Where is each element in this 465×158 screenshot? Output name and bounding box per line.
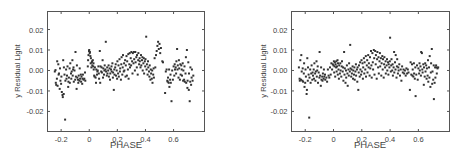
data-point [363, 57, 365, 59]
data-point [359, 69, 361, 71]
data-point [116, 70, 118, 72]
data-point [66, 78, 68, 80]
data-point [348, 62, 350, 64]
data-point [76, 77, 78, 79]
data-point [393, 66, 395, 68]
data-point [164, 92, 166, 94]
data-point [400, 69, 402, 71]
data-point [136, 66, 138, 68]
data-point [397, 73, 399, 75]
data-point [76, 88, 78, 90]
data-point [122, 66, 124, 68]
data-point [370, 50, 372, 52]
data-point [345, 82, 347, 84]
data-point [381, 62, 383, 64]
data-point [88, 49, 90, 51]
data-point [81, 83, 83, 85]
data-point [303, 73, 305, 75]
data-point [308, 74, 310, 76]
data-point [346, 64, 348, 66]
data-point [129, 66, 131, 68]
data-point [379, 52, 381, 54]
data-points [298, 37, 439, 119]
data-point [60, 83, 62, 85]
data-point [328, 75, 330, 77]
data-point [127, 69, 129, 71]
data-point [189, 81, 191, 83]
data-point [396, 58, 398, 60]
y-tick-label: 0.01 [29, 46, 44, 55]
data-point [344, 67, 346, 69]
x-axis-label: PHASE [354, 139, 386, 150]
data-point [90, 57, 92, 59]
data-point [307, 66, 309, 68]
y-tick-label: 0.00 [273, 66, 288, 75]
data-point [335, 63, 337, 65]
data-point [142, 62, 144, 64]
data-point [117, 73, 119, 75]
data-point [172, 79, 174, 81]
data-point [414, 78, 416, 80]
data-point [355, 63, 357, 65]
data-point [67, 65, 69, 67]
data-point [146, 69, 148, 71]
data-point [90, 66, 92, 68]
data-point [160, 47, 162, 49]
data-point [122, 54, 124, 56]
data-point [359, 61, 361, 63]
data-point [298, 66, 300, 68]
data-point [186, 87, 188, 89]
data-point [413, 73, 415, 75]
data-point [340, 76, 342, 78]
data-point [64, 119, 66, 121]
data-point [369, 75, 371, 77]
data-point [96, 74, 98, 76]
data-point [95, 82, 97, 84]
data-point [304, 86, 306, 88]
data-point [79, 78, 81, 80]
data-point [398, 63, 400, 65]
data-point [347, 85, 349, 87]
data-point [344, 74, 346, 76]
data-point [74, 79, 76, 81]
data-point [371, 52, 373, 54]
data-point [302, 81, 304, 83]
data-point [63, 66, 65, 68]
data-point [423, 84, 425, 86]
data-point [424, 76, 426, 78]
data-point [362, 78, 364, 80]
data-point [99, 50, 101, 52]
data-point [313, 78, 315, 80]
data-point [397, 66, 399, 68]
data-point [77, 82, 79, 84]
data-point [182, 70, 184, 72]
data-point [140, 66, 142, 68]
data-point [62, 96, 64, 98]
data-point [324, 79, 326, 81]
data-point [148, 71, 150, 73]
data-point [93, 69, 95, 71]
data-point [115, 75, 117, 77]
data-point [323, 69, 325, 71]
data-point [341, 60, 343, 62]
data-point [71, 59, 73, 61]
data-point [78, 75, 80, 77]
data-point [191, 77, 193, 79]
data-point [165, 71, 167, 73]
data-point [342, 80, 344, 82]
data-point [173, 75, 175, 77]
data-point [146, 63, 148, 65]
data-point [422, 63, 424, 65]
x-tick-label: 0 [331, 135, 335, 144]
data-point [147, 74, 149, 76]
data-point [314, 80, 316, 82]
data-point [97, 70, 99, 72]
data-point [336, 71, 338, 73]
data-point [178, 67, 180, 69]
data-point [373, 57, 375, 59]
data-point [152, 82, 154, 84]
data-point [328, 77, 330, 79]
data-point [89, 51, 91, 53]
data-point [130, 64, 132, 66]
data-point [177, 64, 179, 66]
